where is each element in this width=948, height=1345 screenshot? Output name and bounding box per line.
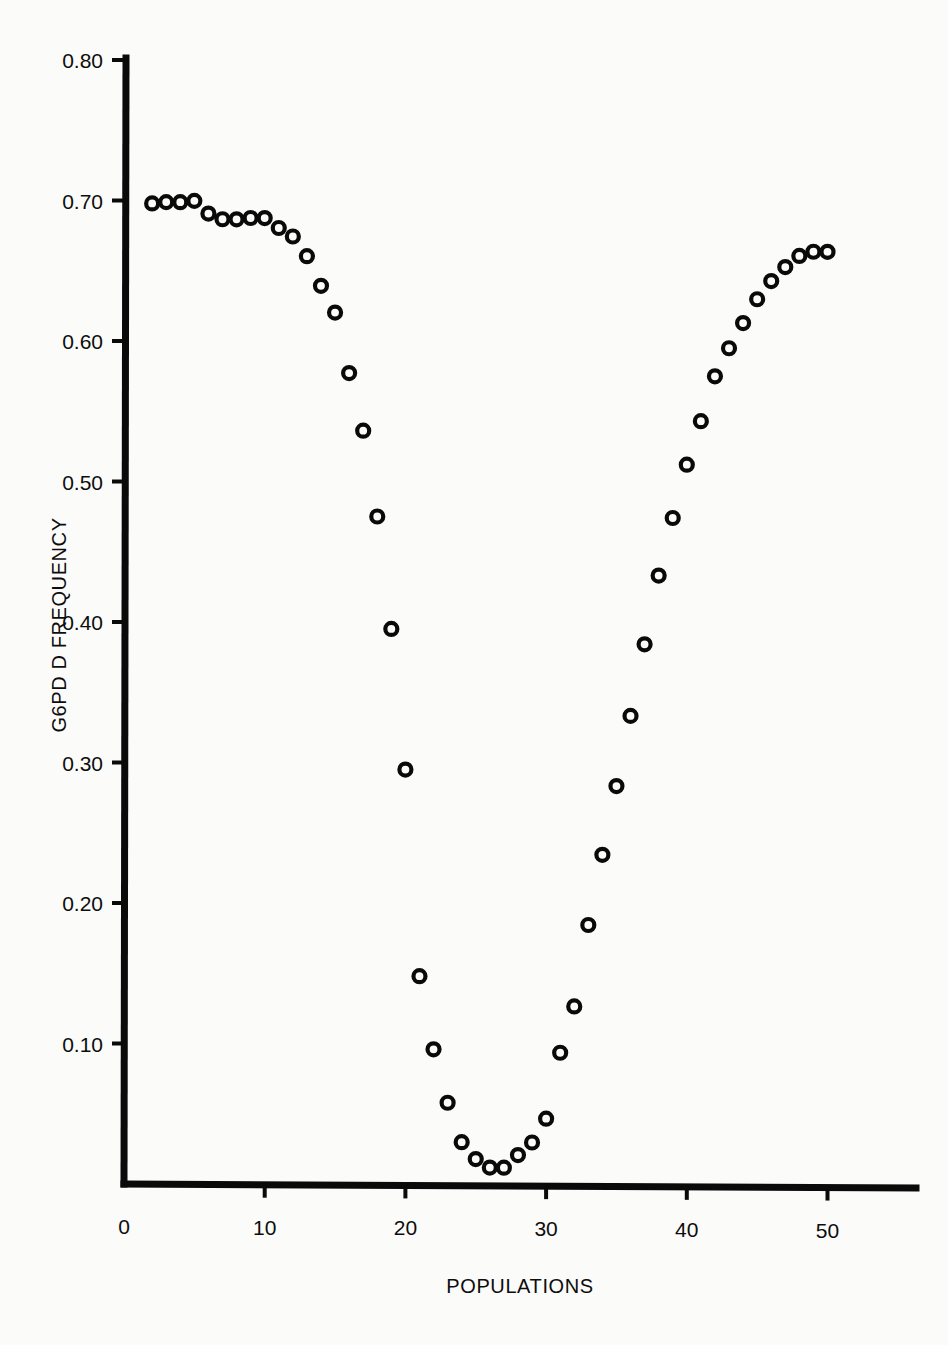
y-tick-label: 0.60 (62, 330, 103, 353)
data-point (681, 459, 693, 471)
data-point (793, 250, 805, 262)
data-point (385, 623, 397, 635)
data-point (582, 919, 594, 931)
x-tick-label: 0 (118, 1215, 130, 1238)
x-axis-line (124, 1184, 916, 1188)
y-tick-label: 0.20 (62, 892, 103, 915)
data-point (751, 293, 763, 305)
data-point (596, 849, 608, 861)
data-point (568, 1000, 580, 1012)
data-point (695, 415, 707, 427)
data-point (540, 1113, 552, 1125)
data-point (625, 710, 637, 722)
data-point (301, 250, 313, 262)
data-point (160, 196, 172, 208)
x-axis-title: POPULATIONS (446, 1275, 593, 1297)
data-point (399, 764, 411, 776)
data-point (357, 425, 369, 437)
data-point (371, 511, 383, 523)
x-tick-label: 50 (816, 1219, 839, 1242)
x-tick-label: 30 (534, 1217, 557, 1240)
y-tick-label: 0.70 (62, 190, 103, 213)
data-point (610, 780, 622, 792)
data-point (737, 317, 749, 329)
x-axis-tick-labels: 01020304050 (118, 1215, 839, 1242)
data-point (723, 342, 735, 354)
data-point (442, 1097, 454, 1109)
y-axis-title: G6PD D FREQUENCY (48, 517, 70, 732)
data-point (667, 512, 679, 524)
figure-canvas: 0.100.200.300.400.500.600.700.80 0102030… (0, 0, 948, 1345)
data-point (456, 1136, 468, 1148)
data-point (343, 367, 355, 379)
data-point (174, 196, 186, 208)
data-point (413, 970, 425, 982)
data-point (188, 195, 200, 207)
data-points-group (146, 195, 833, 1174)
data-point (146, 197, 158, 209)
data-point (639, 638, 651, 650)
y-tick-label: 0.30 (62, 752, 103, 775)
data-point (484, 1162, 496, 1174)
data-point (822, 246, 834, 258)
x-tick-label: 10 (253, 1216, 276, 1239)
data-point (231, 213, 243, 225)
x-tick-label: 20 (394, 1216, 417, 1239)
axes-group (124, 58, 916, 1188)
data-point (315, 280, 327, 292)
data-point (245, 212, 257, 224)
data-point (498, 1162, 510, 1174)
data-point (765, 275, 777, 287)
data-point (526, 1137, 538, 1149)
data-point (273, 222, 285, 234)
data-point (709, 370, 721, 382)
y-tick-label: 0.10 (62, 1033, 103, 1056)
data-point (329, 307, 341, 319)
data-point (428, 1043, 440, 1055)
data-point (470, 1153, 482, 1165)
data-point (512, 1149, 524, 1161)
x-tick-label: 40 (675, 1218, 698, 1241)
data-point (779, 261, 791, 273)
y-tick-label: 0.50 (62, 471, 103, 494)
y-tick-label: 0.80 (62, 49, 103, 72)
scatter-plot: 0.100.200.300.400.500.600.700.80 0102030… (0, 0, 948, 1345)
data-point (554, 1047, 566, 1059)
data-point (202, 208, 214, 220)
data-point (653, 570, 665, 582)
data-point (259, 212, 271, 224)
data-point (287, 230, 299, 242)
data-point (807, 246, 819, 258)
data-point (216, 213, 228, 225)
